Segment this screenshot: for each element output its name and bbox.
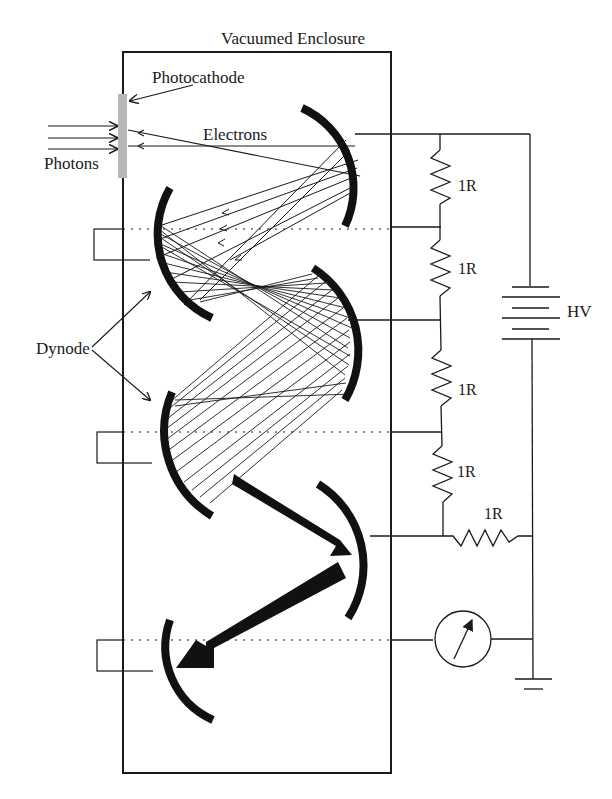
resistor-5-label: 1R	[484, 506, 503, 522]
pmt-diagram	[0, 0, 612, 799]
photocathode-pointer-arrow	[130, 85, 193, 101]
photon-arrows	[48, 126, 117, 149]
dynode-label: Dynode	[36, 340, 90, 357]
electron-beam-stage-4	[232, 474, 352, 556]
dynode-3	[313, 268, 358, 400]
dynode-2	[158, 188, 212, 318]
resistor-2-label: 1R	[458, 261, 477, 277]
photocathode	[118, 94, 127, 178]
photons-label: Photons	[44, 155, 99, 172]
divider-circuit	[348, 134, 560, 689]
meter-needle-icon	[454, 620, 472, 659]
electrons-label: Electrons	[203, 126, 267, 143]
photocathode-label: Photocathode	[152, 69, 245, 86]
resistor-1-label: 1R	[458, 178, 477, 194]
electron-beam-stage-5	[176, 562, 346, 668]
electron-paths-stage-3	[162, 276, 352, 503]
resistor-3-label: 1R	[458, 382, 477, 398]
enclosure-label: Vacuumed Enclosure	[221, 30, 365, 47]
anode	[165, 620, 213, 720]
hv-label: HV	[567, 303, 592, 320]
dynode-pointer-arrows	[92, 292, 150, 400]
resistor-4-label: 1R	[457, 464, 476, 480]
